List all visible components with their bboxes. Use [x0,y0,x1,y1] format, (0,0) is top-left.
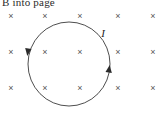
current-label: I [101,28,105,39]
field-mark-cross: × [77,12,82,21]
field-mark-cross: × [8,12,13,21]
field-mark-cross: × [115,84,120,93]
field-mark-cross: × [8,84,13,93]
field-mark-cross: × [77,48,82,57]
field-mark-cross: × [8,48,13,57]
field-mark-cross: × [150,84,155,93]
field-mark-cross: × [42,12,47,21]
field-mark-cross: × [150,12,155,21]
current-arrowhead-left [24,48,31,56]
field-mark-cross: × [42,48,47,57]
field-mark-cross: × [150,48,155,57]
physics-figure: B into page I ××××××××××××××× [0,0,158,116]
field-mark-cross: × [77,84,82,93]
current-loop-circle [28,22,110,106]
field-mark-cross: × [115,12,120,21]
field-mark-cross: × [115,48,120,57]
field-mark-cross: × [42,84,47,93]
current-arrowhead-right [105,65,112,73]
